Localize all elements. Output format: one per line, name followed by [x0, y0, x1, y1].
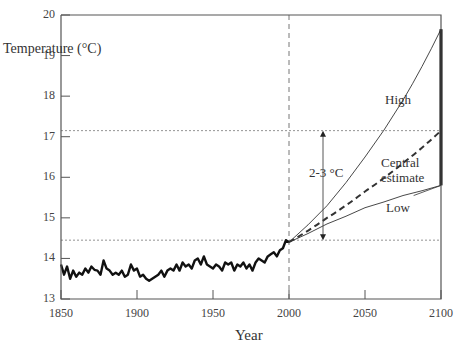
series-high: [289, 29, 441, 242]
series-observed: [61, 240, 289, 281]
low-leader-line: [414, 185, 441, 195]
annotation-estimate: estimate: [381, 170, 424, 186]
y-tick-label: 17: [25, 129, 55, 144]
x-tick-label: 1900: [117, 306, 157, 321]
annotation-high: High: [385, 92, 411, 108]
y-tick-label: 16: [25, 169, 55, 184]
annotation-low: Low: [386, 200, 410, 216]
x-tick-label: 1950: [193, 306, 233, 321]
annotation-central: Central: [381, 155, 419, 171]
x-tick-label: 2000: [269, 306, 309, 321]
series-central-estimate: [289, 131, 441, 243]
annotation-delta: 2-3 °C: [309, 165, 343, 181]
y-tick-label: 14: [25, 250, 55, 265]
y-tick-label: 20: [25, 7, 55, 22]
y-tick-label: 15: [25, 210, 55, 225]
x-tick-label: 2050: [345, 306, 385, 321]
x-tick-label: 1850: [41, 306, 81, 321]
arrow-up-icon: [320, 131, 326, 137]
y-axis-label: Temperature (°C): [3, 41, 101, 57]
x-tick-label: 2100: [421, 306, 458, 321]
arrow-down-icon: [320, 234, 326, 240]
y-tick-label: 13: [25, 291, 55, 306]
delta-arrow: [320, 131, 326, 241]
x-axis-label: Year: [235, 327, 263, 344]
y-tick-label: 18: [25, 88, 55, 103]
